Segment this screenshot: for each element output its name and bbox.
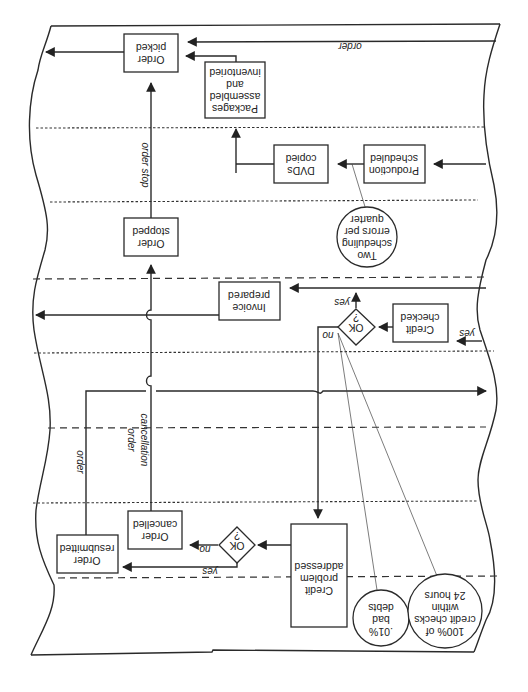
label-yes-ok2: yes [202, 566, 219, 577]
metric-bad-debts: .01% bad debts [353, 590, 409, 646]
node-order-resubmitted[interactable]: Order resubmitted [57, 535, 118, 573]
node-invoice-prepared[interactable]: Invoice prepared [219, 282, 280, 320]
label-order-stop: order stop [140, 142, 151, 187]
svg-text:.01%: .01% [369, 626, 393, 638]
node-dvds-copied[interactable]: DVDs copied [274, 145, 328, 183]
svg-text:Production: Production [369, 165, 419, 177]
node-packages-assembled[interactable]: Packages assembled and inventoried [205, 62, 265, 118]
svg-text:Credit: Credit [406, 324, 434, 336]
node-production-scheduled[interactable]: Production scheduled [364, 145, 425, 183]
label-no-ok2: no [199, 544, 211, 555]
svg-text:checked: checked [400, 312, 439, 324]
svg-text:Order: Order [137, 238, 164, 250]
svg-text:Two: Two [357, 250, 376, 262]
flowchart-diagram: Order picked Packages assembled and inve… [0, 0, 528, 692]
svg-text:Invoice: Invoice [232, 302, 265, 314]
svg-text:addressed: addressed [294, 561, 343, 573]
metric-credit-checks: 100% of credit checks within 24 hours [408, 574, 482, 648]
node-order-cancelled[interactable]: Order cancelled [128, 511, 182, 549]
svg-text:quarter: quarter [350, 214, 384, 226]
lane-separators [33, 127, 498, 578]
svg-text:scheduling: scheduling [342, 238, 392, 250]
svg-text:24 hours: 24 hours [425, 590, 466, 602]
svg-text:assembled: assembled [209, 91, 260, 103]
label-order-cancellation-1: order [126, 428, 137, 452]
svg-text:copied: copied [285, 153, 316, 165]
label-order-resubmit: order [75, 450, 86, 474]
svg-text:resubmitted: resubmitted [59, 543, 114, 555]
svg-text:Order: Order [137, 54, 164, 66]
svg-text:prepared: prepared [228, 290, 270, 302]
svg-text:100% of: 100% of [426, 626, 465, 638]
svg-text:errors per: errors per [344, 226, 390, 238]
svg-text:?: ? [353, 312, 359, 324]
svg-text:inventoried: inventoried [209, 67, 261, 79]
svg-text:cancelled: cancelled [133, 519, 178, 531]
node-order-picked[interactable]: Order picked [124, 34, 178, 72]
svg-text:Order: Order [73, 555, 100, 567]
metric-scheduling-errors: Two scheduling errors per quarter [337, 207, 397, 267]
svg-text:stopped: stopped [132, 226, 170, 238]
svg-text:DVDs: DVDs [287, 165, 314, 177]
node-credit-problem-addressed[interactable]: Credit problem addressed [291, 524, 347, 627]
svg-text:scheduled: scheduled [370, 153, 418, 165]
decision-ok-resubmit[interactable]: OK ? [219, 527, 255, 563]
node-order-stopped[interactable]: Order stopped [124, 218, 178, 256]
svg-text:within: within [431, 602, 459, 614]
label-yes-credit: yes [459, 328, 476, 339]
svg-text:bad: bad [372, 614, 390, 626]
svg-text:Credit: Credit [305, 585, 333, 597]
svg-text:Order: Order [141, 531, 168, 543]
decision-ok-credit[interactable]: OK ? [338, 309, 375, 345]
label-yes-ok1: yes [334, 297, 351, 308]
svg-text:Packages: Packages [212, 103, 258, 115]
svg-text:problem: problem [300, 573, 338, 585]
svg-text:picked: picked [136, 42, 167, 54]
node-credit-checked[interactable]: Credit checked [393, 304, 448, 342]
svg-text:?: ? [234, 530, 240, 542]
svg-text:credit checks: credit checks [414, 614, 475, 626]
svg-text:debts: debts [368, 602, 394, 614]
label-no-ok1: no [322, 330, 334, 341]
svg-text:and: and [226, 79, 244, 91]
label-order-cancellation-2: cancellation [139, 414, 150, 467]
label-order-top: order [338, 41, 362, 52]
